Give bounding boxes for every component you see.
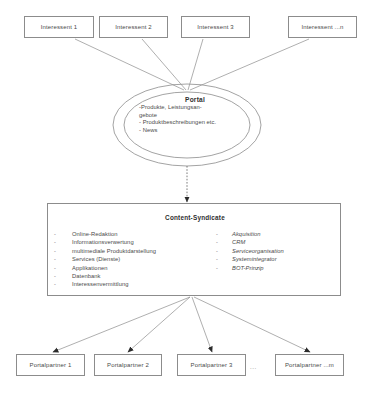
node-portalpartner-2[interactable]: Portalpartner 2 [94,354,162,376]
diagram-canvas: Interessent 1 Interessent 2 Interessent … [0,0,381,393]
node-label: Interessent 2 [115,24,152,30]
list-item: - Applikationen [54,264,208,272]
list-item: - Akquisition [216,230,342,238]
bullet-dash: - [54,238,72,246]
portal-line-4: - News [139,127,251,135]
list-item-label: Systemintegrator [232,255,277,263]
list-item-label: Akquisition [232,230,261,238]
portal-title: Portal [139,96,251,103]
bullet-dash: - [54,255,72,263]
bullet-dash: - [216,247,232,255]
list-item: - Services (Dienste) [54,255,208,263]
list-item-label: Informationsverwertung [72,238,134,246]
list-item-label: Applikationen [72,264,107,272]
list-item: - multimediale Produktdarstellung [54,247,208,255]
list-item-label: CRM [232,238,245,246]
node-label: Portalpartner 2 [107,362,149,368]
node-label: Interessent ...n [301,24,343,30]
list-item: - CRM [216,238,342,246]
portal-line-2: gebote [139,112,251,120]
content-syndicate-title: Content-Syndicate [48,214,342,221]
list-item: - Systemintegrator [216,255,342,263]
syndicate-left-column: - Online-Redaktion - Informationsverwert… [48,230,208,289]
node-interessent-n[interactable]: Interessent ...n [288,16,357,38]
syndicate-right-column: - Akquisition - CRM - Serviceorganisatio… [208,230,342,289]
list-item: - BOT-Prinzip [216,264,342,272]
list-item: - Online-Redaktion [54,230,208,238]
node-label: Interessent 1 [41,24,78,30]
node-label: Interessent 3 [197,24,234,30]
node-interessent-3[interactable]: Interessent 3 [181,16,250,38]
list-item: - Informationsverwertung [54,238,208,246]
bullet-dash: - [216,264,232,272]
node-interessent-2[interactable]: Interessent 2 [99,16,168,38]
list-item-label: Serviceorganisation [232,247,284,255]
node-label: Portalpartner 3 [191,362,233,368]
list-item-label: Online-Redaktion [72,230,118,238]
bullet-dash: - [216,255,232,263]
bottom-row-ellipsis: ... [250,364,257,370]
connector-layer [0,0,381,393]
list-item-label: multimediale Produktdarstellung [72,247,156,255]
portal-line-1: -Produkte, Leistungsan- [139,104,251,112]
bullet-dash: - [216,230,232,238]
content-syndicate-panel[interactable]: Content-Syndicate - Online-Redaktion - I… [47,203,341,296]
list-item: - Datenbank [54,272,208,280]
node-portalpartner-3[interactable]: Portalpartner 3 [177,354,246,376]
interessent-to-portal-lines [75,39,309,90]
list-item-label: Interessenvermittlung [72,280,128,288]
list-item-label: Services (Dienste) [72,255,120,263]
syndicate-to-partner-arrows [53,297,310,352]
portal-line-3: - Produktbeschreibungen etc. [139,119,251,127]
bullet-dash: - [216,238,232,246]
content-syndicate-columns: - Online-Redaktion - Informationsverwert… [48,230,342,289]
node-interessent-1[interactable]: Interessent 1 [24,16,94,38]
bullet-dash: - [54,247,72,255]
portal-node[interactable]: Portal -Produkte, Leistungsan- gebote - … [113,84,261,166]
list-item: - Interessenvermittlung [54,280,208,288]
list-item-label: Datenbank [72,272,101,280]
node-portalpartner-1[interactable]: Portalpartner 1 [16,354,85,376]
node-label: Portalpartner ...m [285,362,334,368]
bullet-dash: - [54,280,72,288]
bullet-dash: - [54,230,72,238]
bullet-dash: - [54,264,72,272]
bullet-dash: - [54,272,72,280]
portal-text-block: Portal -Produkte, Leistungsan- gebote - … [139,96,251,134]
node-label: Portalpartner 1 [30,362,72,368]
node-portalpartner-m[interactable]: Portalpartner ...m [275,354,344,376]
list-item: - Serviceorganisation [216,247,342,255]
list-item-label: BOT-Prinzip [232,264,264,272]
